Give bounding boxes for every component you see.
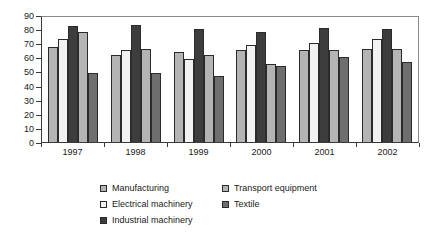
y-tick-label: 60 — [24, 54, 34, 63]
bar — [402, 62, 412, 142]
y-tick-label: 90 — [24, 12, 34, 21]
bar-group — [362, 17, 412, 142]
x-tick-label: 1998 — [125, 147, 145, 157]
legend-label: Manufacturing — [112, 183, 169, 193]
bar — [372, 39, 382, 142]
y-tick-label: 30 — [24, 96, 34, 105]
legend-swatch-icon — [222, 201, 229, 208]
bar — [184, 59, 194, 142]
bar — [88, 73, 98, 142]
bar — [111, 55, 121, 142]
legend-swatch-icon — [222, 185, 229, 192]
bar — [382, 29, 392, 142]
bars-layer — [42, 17, 418, 142]
legend-label: Industrial machinery — [112, 215, 193, 225]
bar — [68, 26, 78, 142]
legend-label: Electrical machinery — [112, 199, 193, 209]
y-tick-label: 40 — [24, 82, 34, 91]
bar — [309, 43, 319, 142]
x-tick-label: 2001 — [314, 147, 334, 157]
bar-group — [111, 17, 161, 142]
bar — [299, 50, 309, 142]
y-tick-label: 0 — [29, 139, 34, 148]
x-tick-label: 1999 — [188, 147, 208, 157]
chart-legend: ManufacturingTransport equipmentElectric… — [100, 183, 370, 233]
bar — [194, 29, 204, 142]
x-tick-label: 2002 — [377, 147, 397, 157]
legend-swatch-icon — [100, 185, 107, 192]
bar — [246, 45, 256, 142]
legend-entry[interactable]: Industrial machinery — [100, 215, 193, 225]
y-tick-label: 70 — [24, 40, 34, 49]
x-tick-label: 2000 — [251, 147, 271, 157]
bar — [236, 50, 246, 142]
y-tick-label: 20 — [24, 110, 34, 119]
bar — [78, 32, 88, 142]
y-tick-label: 10 — [24, 124, 34, 133]
bar — [362, 49, 372, 142]
bar — [339, 57, 349, 142]
plot-area — [41, 16, 419, 143]
legend-entry[interactable]: Manufacturing — [100, 183, 169, 193]
bar — [392, 49, 402, 142]
bar-group — [48, 17, 98, 142]
bar — [48, 47, 58, 142]
bar-chart-figure: 0102030405060708090 19971998199920002001… — [0, 0, 440, 242]
legend-swatch-icon — [100, 201, 107, 208]
y-axis-tick-labels: 0102030405060708090 — [0, 16, 34, 143]
bar — [256, 32, 266, 142]
legend-entry[interactable]: Transport equipment — [222, 183, 317, 193]
bar — [58, 39, 68, 142]
legend-entry[interactable]: Electrical machinery — [100, 199, 193, 209]
bar — [204, 55, 214, 142]
bar — [141, 49, 151, 142]
bar — [174, 52, 184, 142]
bar — [131, 25, 141, 142]
x-tick-label: 1997 — [62, 147, 82, 157]
legend-entry[interactable]: Textile — [222, 199, 260, 209]
bar-group — [236, 17, 286, 142]
bar — [121, 50, 131, 142]
x-tick-mark — [419, 143, 420, 147]
x-axis-tick-labels: 199719981999200020012002 — [41, 147, 419, 161]
bar — [151, 73, 161, 142]
y-tick-label: 50 — [24, 68, 34, 77]
bar — [329, 50, 339, 142]
bar-group — [299, 17, 349, 142]
legend-label: Transport equipment — [234, 183, 317, 193]
legend-swatch-icon — [100, 217, 107, 224]
y-tick-label: 80 — [24, 26, 34, 35]
bar — [214, 76, 224, 142]
bar-group — [174, 17, 224, 142]
bar — [266, 64, 276, 142]
bar — [276, 66, 286, 142]
legend-label: Textile — [234, 199, 260, 209]
bar — [319, 28, 329, 142]
